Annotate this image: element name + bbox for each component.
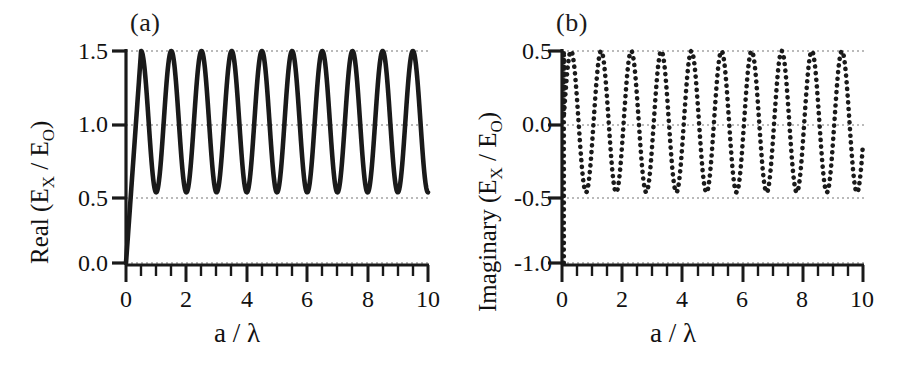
figure-root: (a) Real (EX / EO) 1.5 1.0 0.5 0.0 0 2 4… — [0, 0, 904, 366]
panel-a-data-curve — [126, 51, 428, 263]
panel-a: (a) Real (EX / EO) 1.5 1.0 0.5 0.0 0 2 4… — [0, 0, 452, 366]
panel-b: (b) Imaginary (EX / EO) 0.5 0.0 -0.5 -1.… — [452, 0, 904, 366]
panel-b-data-curve — [564, 51, 863, 263]
panel-b-plot — [452, 0, 904, 366]
panel-a-plot — [0, 0, 452, 366]
panel-a-y-ticks — [112, 51, 126, 263]
panel-a-gridlines — [126, 51, 429, 263]
panel-a-axes — [125, 49, 429, 265]
panel-b-y-ticks — [548, 51, 562, 263]
panel-b-x-minor-ticks — [577, 265, 848, 276]
panel-a-x-minor-ticks — [141, 265, 413, 276]
